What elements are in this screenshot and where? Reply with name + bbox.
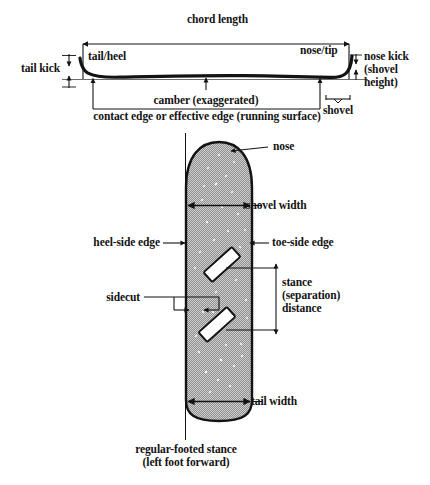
heel-side-edge-label: heel-side edge <box>62 236 160 249</box>
nose-kick-label: nose kick (shovel height) <box>364 50 430 89</box>
board-outline <box>186 142 252 421</box>
tail-heel-label: tail/heel <box>88 50 126 63</box>
plan-diagram <box>144 133 276 440</box>
shovel-bracket <box>326 95 350 103</box>
shovel-width-label: shovel width <box>246 199 306 212</box>
snowboard-anatomy-diagram: chord length tail kick tail/heel nose/ti… <box>0 0 430 485</box>
stance-distance-label: stance (separation) distance <box>282 276 360 315</box>
camber-label: camber (exaggerated) <box>120 94 292 107</box>
toe-side-edge-label: toe-side edge <box>272 236 334 249</box>
contact-edge-label: contact edge or effective edge (running … <box>62 110 352 123</box>
nose-tip-label: nose/tip <box>300 44 338 57</box>
tail-width-label: tail width <box>251 395 297 408</box>
tail-kick-dimension <box>62 54 76 88</box>
tail-kick-label: tail kick <box>2 62 60 75</box>
sidecut-label: sidecut <box>84 291 140 304</box>
chord-length-label: chord length <box>145 13 290 26</box>
nose-label: nose <box>273 140 294 153</box>
stance-caption: regular-footed stance (left foot forward… <box>105 443 267 469</box>
